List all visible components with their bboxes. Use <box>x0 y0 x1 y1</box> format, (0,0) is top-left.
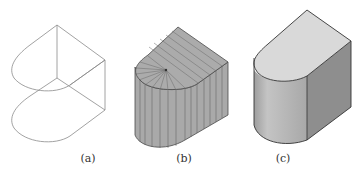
wireframe-model <box>12 25 105 142</box>
caption-c: (c) <box>276 152 291 165</box>
caption-a: (a) <box>80 152 95 165</box>
faceted-model <box>135 27 228 148</box>
caption-b: (b) <box>176 152 192 165</box>
smooth-shaded-model <box>254 10 351 144</box>
